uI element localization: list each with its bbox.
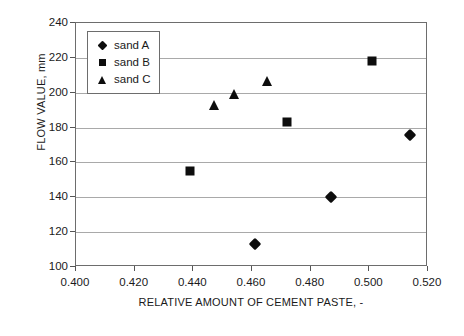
x-axis-tick-mark [368, 266, 369, 271]
data-point-square [368, 57, 377, 66]
data-point-diamond [404, 128, 417, 141]
gridline [76, 162, 426, 163]
y-axis-tick-mark [70, 127, 75, 128]
legend-item: sand C [95, 71, 150, 88]
legend-item-label: sand B [114, 56, 150, 69]
y-axis-tick-mark [70, 231, 75, 232]
y-axis-tick-mark [70, 57, 75, 58]
legend-square-icon [95, 59, 109, 66]
legend-item: sand B [95, 54, 150, 71]
y-axis-tick-mark [70, 22, 75, 23]
square-icon [99, 59, 106, 66]
x-axis-tick-label: 0.440 [162, 276, 222, 288]
legend-item: sand A [95, 37, 150, 54]
legend-item-label: sand C [114, 73, 150, 86]
x-axis-tick-label: 0.480 [280, 276, 340, 288]
triangle-icon [98, 76, 106, 84]
legend-diamond-icon [95, 42, 109, 49]
y-axis-title: FLOW VALUE, mm [35, 17, 47, 187]
x-axis-tick-label: 0.500 [338, 276, 398, 288]
gridline [76, 232, 426, 233]
data-point-triangle [262, 76, 272, 86]
gridline [76, 197, 426, 198]
y-axis-tick-mark [70, 161, 75, 162]
x-axis-title: RELATIVE AMOUNT OF CEMENT PASTE, - [75, 296, 427, 308]
diamond-icon [97, 41, 107, 51]
y-axis-tick-label: 100 [34, 260, 68, 272]
y-axis-tick-mark [70, 92, 75, 93]
data-point-square [283, 118, 292, 127]
x-axis-tick-label: 0.460 [221, 276, 281, 288]
data-point-diamond [325, 191, 338, 204]
legend-triangle-icon [95, 76, 109, 84]
x-axis-tick-label: 0.400 [45, 276, 105, 288]
x-axis-tick-mark [75, 266, 76, 271]
data-point-diamond [249, 238, 262, 251]
gridline [76, 128, 426, 129]
y-axis-tick-label: 120 [34, 225, 68, 237]
x-axis-tick-mark [192, 266, 193, 271]
legend-item-label: sand A [114, 39, 149, 52]
scatter-chart: 100120140160180200220240 0.4000.4200.440… [0, 0, 464, 336]
y-axis-tick-mark [70, 196, 75, 197]
x-axis-tick-label: 0.520 [397, 276, 457, 288]
x-axis-tick-mark [427, 266, 428, 271]
x-axis-tick-mark [134, 266, 135, 271]
data-point-triangle [229, 89, 239, 99]
x-axis-tick-mark [310, 266, 311, 271]
data-point-triangle [209, 100, 219, 110]
chart-legend: sand Asand Bsand C [87, 31, 160, 94]
x-axis-tick-label: 0.420 [104, 276, 164, 288]
x-axis-tick-mark [251, 266, 252, 271]
y-axis-tick-label: 140 [34, 190, 68, 202]
data-point-square [186, 167, 195, 176]
